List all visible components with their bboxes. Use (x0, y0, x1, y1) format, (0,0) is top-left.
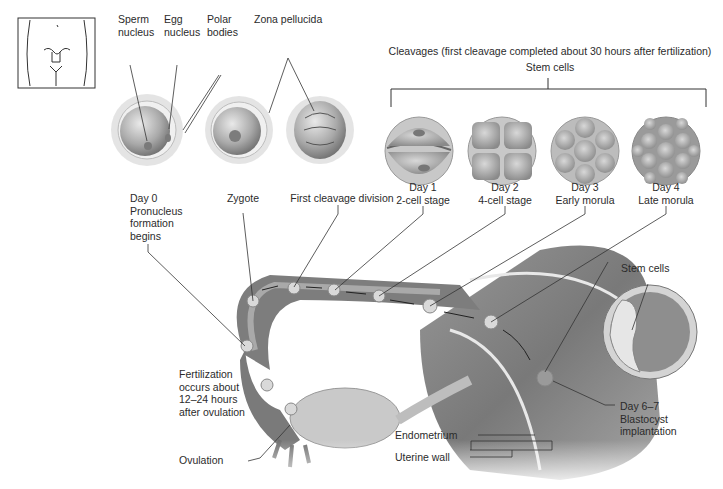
stage-label-day0: Day 0 Pronucleus formation begins (130, 192, 183, 242)
blastocyst-stem-cells-label: Stem cells (621, 262, 669, 275)
first-cleavage-cell (286, 96, 354, 164)
endometrium-label: Endometrium (395, 429, 457, 442)
stem-cells-bracket (391, 78, 706, 107)
stem-cells-bracket-label: Stem cells (500, 61, 600, 74)
zygote-cell (205, 96, 273, 164)
implantation-label: Day 6–7 Blastocyst implantation (620, 400, 677, 438)
stage-label-day2: Day 2 4-cell stage (465, 181, 545, 206)
polar-bodies-label: Polar bodies (207, 13, 238, 38)
stage-label-zygote: Zygote (213, 192, 273, 205)
stage-label-day4: Day 4 Late morula (626, 181, 706, 206)
sperm-nucleus-label: Sperm nucleus (118, 13, 154, 38)
two-cell-stage (385, 117, 453, 185)
stage-label-day3: Day 3 Early morula (545, 181, 625, 206)
four-cell-stage (468, 117, 536, 185)
zona-pellucida-label: Zona pellucida (254, 13, 322, 26)
late-morula (632, 117, 700, 185)
fertilization-diagram: Sperm nucleus Egg nucleus Polar bodies Z… (0, 0, 723, 489)
stage-label-first-cleavage: First cleavage division (287, 192, 397, 205)
cleavages-title: Cleavages (first cleavage completed abou… (380, 45, 720, 58)
body-inset-icon (18, 18, 95, 88)
blastocyst-cross-section (603, 284, 697, 379)
fertilization-label: Fertilization occurs about 12–24 hours a… (179, 368, 245, 418)
stage-label-day1: Day 1 2-cell stage (383, 181, 463, 206)
uterine-wall-label: Uterine wall (395, 451, 450, 464)
early-morula (551, 117, 619, 185)
ovulation-label: Ovulation (179, 454, 223, 467)
diagram-artwork (0, 0, 723, 489)
egg-nucleus-label: Egg nucleus (164, 13, 200, 38)
